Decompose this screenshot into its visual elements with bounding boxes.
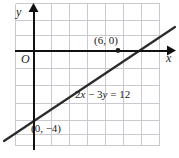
y-intercept-label: (0, −4) xyxy=(31,123,61,134)
x-intercept-point xyxy=(116,48,121,53)
plotted-line xyxy=(4,27,175,141)
x-axis xyxy=(15,46,176,56)
graph-canvas xyxy=(0,0,179,158)
origin-label: O xyxy=(21,53,30,65)
equation-var-x: x xyxy=(81,88,86,100)
coordinate-graph-figure: y x O (6, 0) (0, −4) 2x − 3y = 12 xyxy=(0,0,179,158)
equation-label: 2x − 3y = 12 xyxy=(75,89,130,100)
x-axis-label: x xyxy=(166,52,171,64)
y-axis-label: y xyxy=(16,6,21,18)
equation-equals: = xyxy=(110,88,116,100)
x-intercept-label: (6, 0) xyxy=(94,35,118,46)
equation-minus: − xyxy=(88,88,94,100)
equation-var-y: y xyxy=(103,88,108,100)
equation-constant: 12 xyxy=(119,88,130,100)
